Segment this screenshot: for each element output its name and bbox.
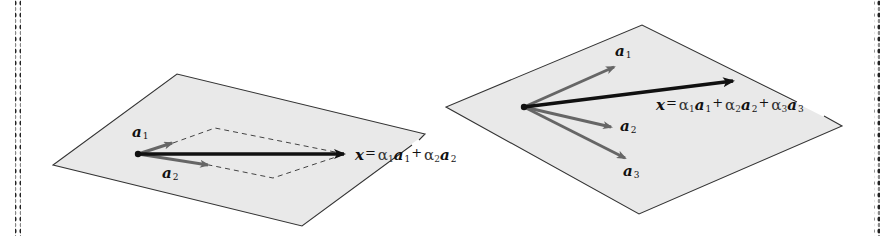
left-dotted-border — [15, 0, 21, 236]
right-eq-vec-2: a2 — [741, 96, 757, 114]
right-a2-label: a2 — [620, 119, 636, 135]
left-eq-equals: = — [365, 145, 376, 160]
right-eq-coef-3: α3 — [771, 96, 787, 114]
left-eq-x: x — [355, 146, 364, 164]
right-origin-dot — [521, 104, 527, 110]
right-a1-label: a1 — [615, 44, 631, 60]
right-eq-coef-1: α1 — [679, 96, 695, 114]
right-a1-symbol: a — [615, 42, 625, 60]
right-eq-x: x — [656, 96, 665, 114]
diagram-canvas — [0, 0, 892, 236]
linear-combination-diagram: a1 a2 x=α1a1+α2a2 a1 a2 a3 x=α1a1+α2a2+α… — [0, 0, 892, 236]
right-plane — [446, 25, 842, 214]
left-a2-subscript: 2 — [173, 172, 179, 182]
right-eq-plus-1: + — [712, 95, 723, 110]
right-eq-equals: = — [666, 95, 677, 110]
left-eq-vec-2: a2 — [440, 146, 456, 164]
left-eq-coef-1: α1 — [378, 146, 394, 164]
left-a1-symbol: a — [132, 123, 142, 141]
left-a2-symbol: a — [162, 164, 172, 182]
left-eq-coef-2: α2 — [424, 146, 440, 164]
left-a2-label: a2 — [162, 166, 178, 182]
right-a3-label: a3 — [623, 164, 639, 180]
left-equation: x=α1a1+α2a2 — [355, 146, 456, 164]
right-dotted-border — [874, 0, 880, 236]
right-eq-plus-2: + — [758, 95, 769, 110]
left-a1-label: a1 — [132, 125, 148, 141]
left-eq-vec-1: a1 — [394, 146, 410, 164]
right-eq-vec-1: a1 — [695, 96, 711, 114]
right-a3-subscript: 3 — [634, 170, 640, 180]
left-a1-subscript: 1 — [143, 131, 149, 141]
right-a2-symbol: a — [620, 117, 630, 135]
left-origin-dot — [135, 151, 141, 157]
left-eq-plus-1: + — [411, 145, 422, 160]
right-eq-vec-3: a3 — [787, 96, 803, 114]
right-a1-subscript: 1 — [626, 50, 632, 60]
right-a2-subscript: 2 — [631, 125, 637, 135]
right-eq-coef-2: α2 — [725, 96, 741, 114]
right-a3-symbol: a — [623, 162, 633, 180]
right-panel — [446, 25, 842, 214]
right-equation: x=α1a1+α2a2+α3a3 — [656, 96, 804, 114]
